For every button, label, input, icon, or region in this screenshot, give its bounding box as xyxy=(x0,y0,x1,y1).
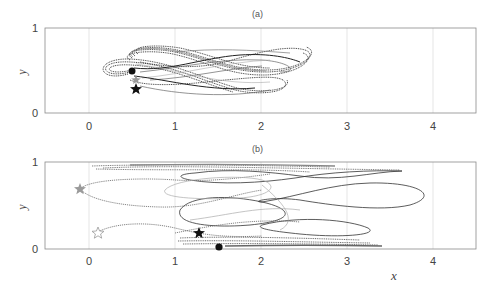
panel-a-start-circle xyxy=(129,68,136,75)
panel-b-xlabel: x xyxy=(390,268,397,283)
panel-b-trajectories xyxy=(80,164,424,246)
panel-b-ytick-0: 0 xyxy=(32,243,38,255)
panel-a-xtick-4: 4 xyxy=(430,120,436,132)
panel-a-xtick-3: 3 xyxy=(344,120,350,132)
panel-b-xtick-1: 1 xyxy=(172,255,178,267)
panel-b: 1 0 y 0 1 2 3 4 x xyxy=(15,156,476,283)
panel-b-gray-filled-star xyxy=(74,183,86,194)
plots-svg: 1 0 y 0 1 2 3 4 xyxy=(0,0,500,292)
panel-a-xtick-1: 1 xyxy=(172,120,178,132)
panel-b-ylabel: y xyxy=(15,204,29,211)
panel-b-start-circle xyxy=(215,243,222,250)
panel-a-dark-star xyxy=(130,83,142,94)
panel-b-xtick-0: 0 xyxy=(86,255,92,267)
panel-a-xtick-0: 0 xyxy=(86,120,92,132)
panel-a-ytick-1: 1 xyxy=(32,22,38,34)
panel-a-xtick-2: 2 xyxy=(258,120,264,132)
panel-b-xtick-2: 2 xyxy=(258,255,264,267)
panel-a: 1 0 y 0 1 2 3 4 xyxy=(15,22,476,132)
panel-b-ytick-1: 1 xyxy=(32,156,38,168)
panel-a-ytick-0: 0 xyxy=(32,107,38,119)
panel-a-grid xyxy=(89,28,433,113)
panel-b-dark-star xyxy=(193,227,205,238)
panel-b-xtick-3: 3 xyxy=(344,255,350,267)
figure: (a) (b) xyxy=(0,0,500,292)
panel-b-open-star xyxy=(92,227,104,238)
panel-a-ylabel: y xyxy=(15,69,29,76)
panel-b-xtick-4: 4 xyxy=(430,255,436,267)
